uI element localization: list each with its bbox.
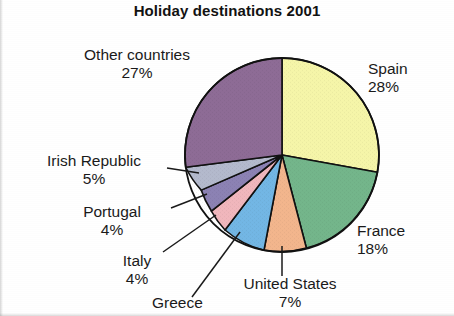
pie-label-france-name: France [357, 222, 405, 239]
pie-label-other-countries-pct: 27% [62, 64, 212, 82]
pie-label-italy-name: Italy [123, 252, 151, 269]
pie-label-united-states: United States 7% [228, 275, 352, 311]
pie-chart-figure: Holiday destinations 2001 [0, 0, 454, 316]
pie-label-france-pct: 18% [357, 240, 449, 258]
pie-label-irish-republic: Irish Republic 5% [22, 152, 166, 188]
pie-label-greece-name: Greece [152, 294, 203, 311]
pie-label-spain-name: Spain [368, 60, 408, 77]
pie-label-italy: Italy 4% [104, 252, 170, 288]
pie-label-irish-republic-name: Irish Republic [47, 152, 141, 169]
pie-label-portugal-name: Portugal [83, 203, 141, 220]
pie-label-irish-republic-pct: 5% [22, 170, 166, 188]
pie-label-france: France 18% [357, 222, 449, 258]
pie-label-united-states-name: United States [243, 275, 336, 292]
leader-line-italy [163, 215, 216, 252]
pie-label-portugal: Portugal 4% [56, 203, 168, 239]
pie-label-portugal-pct: 4% [56, 221, 168, 239]
pie-label-other-countries-name: Other countries [84, 46, 190, 63]
pie-label-spain-pct: 28% [368, 78, 446, 96]
pie-label-other-countries: Other countries 27% [62, 46, 212, 82]
paper-texture-overlay [186, 59, 378, 251]
pie-label-spain: Spain 28% [368, 60, 446, 96]
pie-label-united-states-pct: 7% [228, 293, 352, 311]
pie-label-greece: Greece [152, 294, 236, 312]
pie-label-italy-pct: 4% [104, 270, 170, 288]
